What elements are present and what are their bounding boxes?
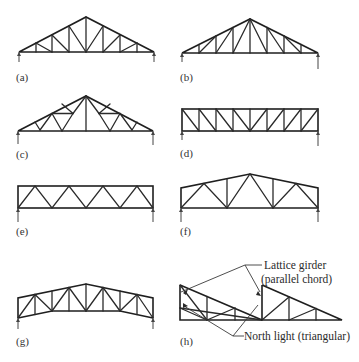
truss-a: (a) [16, 17, 156, 84]
truss-diagram: (a) (b) [0, 0, 359, 362]
truss-h: Lattice girder (parallel chord) North li… [180, 259, 350, 348]
label-c: (c) [16, 148, 29, 161]
annotation-north-light: North light (triangular) [244, 330, 350, 343]
annotation-parallel-chord: (parallel chord) [261, 273, 332, 286]
label-f: (f) [180, 225, 191, 238]
truss-c: (c) [16, 96, 155, 161]
label-h: (h) [180, 335, 193, 348]
truss-f: (f) [179, 174, 320, 238]
truss-g: (g) [16, 284, 155, 348]
truss-b: (b) [180, 19, 320, 84]
truss-d: (d) [180, 109, 320, 160]
annotation-lattice-girder: Lattice girder [264, 259, 326, 272]
label-d: (d) [180, 147, 193, 160]
label-b: (b) [180, 71, 193, 84]
label-a: (a) [16, 71, 29, 84]
label-e: (e) [16, 225, 29, 238]
truss-e: (e) [16, 186, 155, 238]
label-g: (g) [16, 335, 29, 348]
